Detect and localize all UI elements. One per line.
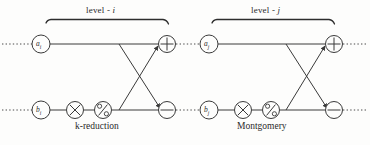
op-multiply-left bbox=[67, 102, 84, 119]
node-b-j-sub: j bbox=[208, 110, 210, 116]
node-a-j-sub: j bbox=[208, 44, 210, 50]
node-a-i-label: ai bbox=[36, 39, 41, 50]
level-i-label-dash: - bbox=[107, 5, 110, 15]
op-add-right bbox=[326, 36, 343, 53]
node-a-j-label: aj bbox=[204, 39, 209, 50]
node-b-i-sub: i bbox=[40, 110, 42, 116]
op-multiply-right bbox=[235, 102, 252, 119]
level-j-label-dash: - bbox=[272, 5, 275, 15]
node-a-i-sub: i bbox=[40, 44, 42, 50]
level-i-label: level - i bbox=[86, 5, 115, 15]
level-j-label-prefix: level bbox=[251, 5, 270, 15]
node-b-j-label: bj bbox=[204, 105, 209, 116]
op-subtract-right bbox=[326, 102, 343, 119]
op-subtract-left bbox=[159, 102, 176, 119]
level-i-bracket bbox=[46, 20, 169, 25]
level-i-label-index: i bbox=[113, 5, 116, 15]
level-j-bracket bbox=[212, 20, 335, 25]
montgomery-label: Montgomery bbox=[237, 121, 287, 131]
diagram-canvas bbox=[0, 0, 370, 145]
op-add-left bbox=[159, 36, 176, 53]
k-reduction-label: k-reduction bbox=[75, 121, 119, 131]
level-i-label-prefix: level bbox=[86, 5, 105, 15]
level-j-label: level - j bbox=[251, 5, 280, 15]
op-modulo-right bbox=[263, 102, 280, 119]
butterfly-figure: level - i level - j ai bi aj bj k-reduct… bbox=[0, 0, 370, 145]
cross-bottom-to-plus-right bbox=[286, 46, 325, 110]
level-j-label-index: j bbox=[278, 5, 281, 15]
op-modulo-left bbox=[95, 102, 112, 119]
node-b-i-label: bi bbox=[36, 105, 41, 116]
cross-bottom-to-plus-left bbox=[119, 46, 158, 110]
